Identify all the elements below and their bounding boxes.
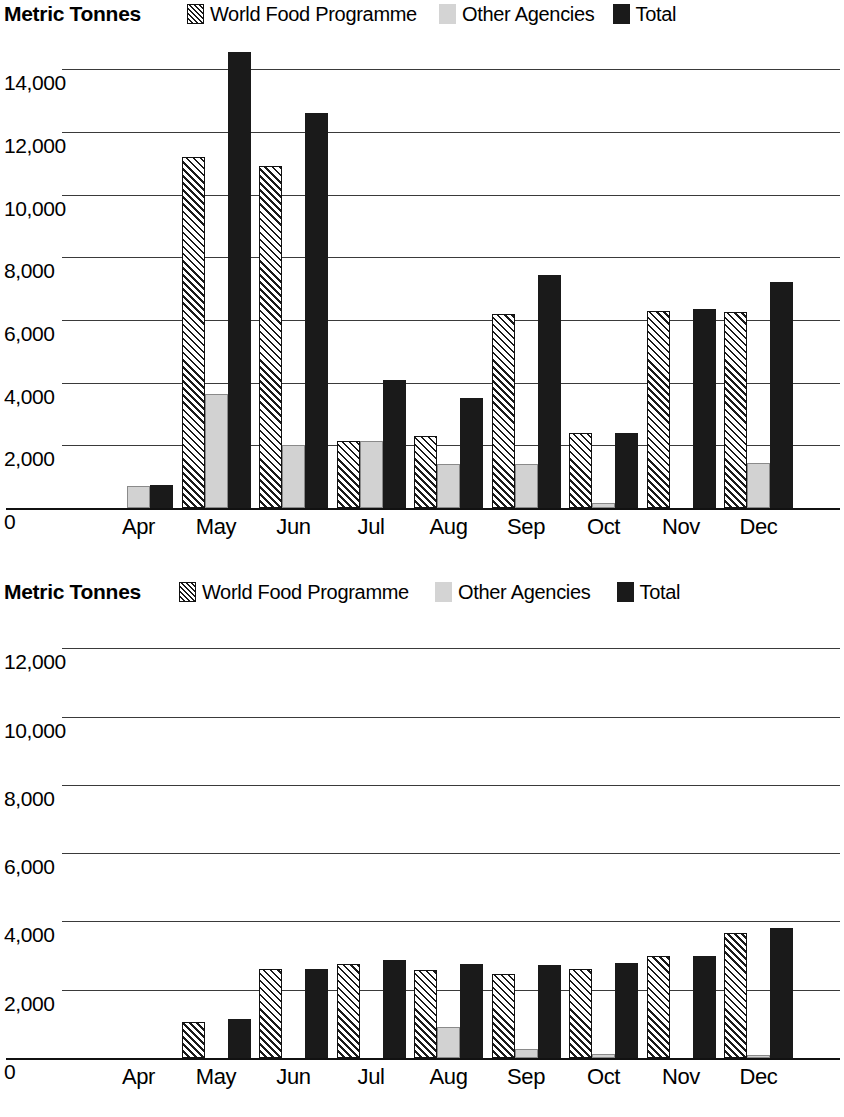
light-grey-swatch-icon xyxy=(435,582,452,602)
bar-other-apr xyxy=(127,486,150,508)
bar-other-dec xyxy=(747,463,770,508)
x-axis-tick-label: Jul xyxy=(358,514,385,540)
chart-top-plot-area: 02,0004,0006,0008,00010,00012,00014,000A… xyxy=(0,28,844,558)
x-axis-tick-label: Nov xyxy=(662,514,700,540)
bar-wfp-aug xyxy=(414,970,437,1058)
gridline xyxy=(62,69,840,70)
bar-total-oct xyxy=(615,433,638,508)
y-axis-tick-label: 10,000 xyxy=(4,198,66,219)
bar-other-sep xyxy=(515,1049,538,1058)
x-axis-tick-label: Jun xyxy=(276,1064,310,1090)
bar-other-sep xyxy=(515,464,538,508)
legend-label-wfp: World Food Programme xyxy=(202,581,409,604)
y-axis-tick-label: 12,000 xyxy=(4,135,66,156)
x-axis-tick-label: May xyxy=(196,1064,236,1090)
gridline xyxy=(62,195,840,196)
bar-total-sep xyxy=(538,965,561,1058)
y-axis-tick-label: 0 xyxy=(4,1061,15,1082)
bar-total-jul xyxy=(383,380,406,508)
chart-top-legend-row: Metric Tonnes World Food Programme Other… xyxy=(0,0,844,28)
gridline xyxy=(62,921,840,922)
light-grey-swatch-icon xyxy=(439,4,456,24)
black-swatch-icon xyxy=(617,582,634,602)
bar-wfp-oct xyxy=(569,433,592,508)
chart-bottom-axis-title: Metric Tonnes xyxy=(4,580,141,604)
bar-other-jun xyxy=(282,445,305,508)
bar-total-may xyxy=(228,52,251,508)
x-axis-tick-label: Nov xyxy=(662,1064,700,1090)
chart-top-plot: 02,0004,0006,0008,00010,00012,00014,000A… xyxy=(0,28,844,558)
gridline xyxy=(62,853,840,854)
y-axis-tick-label: 2,000 xyxy=(4,993,55,1014)
legend-label-other: Other Agencies xyxy=(462,3,595,26)
x-axis-tick-label: Oct xyxy=(587,514,620,540)
black-swatch-icon xyxy=(613,4,630,24)
gridline xyxy=(62,132,840,133)
x-axis-tick-label: Jul xyxy=(358,1064,385,1090)
legend-label-total: Total xyxy=(640,581,681,604)
legend-item-total: Total xyxy=(617,581,681,604)
legend-label-total: Total xyxy=(636,3,677,26)
x-axis-tick-label: Dec xyxy=(740,514,778,540)
bar-total-oct xyxy=(615,963,638,1058)
bar-total-aug xyxy=(460,964,483,1058)
bar-other-dec xyxy=(747,1055,770,1058)
x-axis-tick-label: Apr xyxy=(122,1064,155,1090)
chart-bottom-legend-row: Metric Tonnes World Food Programme Other… xyxy=(0,560,844,606)
y-axis-tick-label: 10,000 xyxy=(4,720,66,741)
chart-bottom-legend: World Food Programme Other Agencies Tota… xyxy=(179,581,680,604)
bar-total-may xyxy=(228,1019,251,1058)
chart-top-legend: World Food Programme Other Agencies Tota… xyxy=(187,3,676,26)
bar-wfp-oct xyxy=(569,969,592,1058)
gridline xyxy=(62,717,840,718)
bar-other-jul xyxy=(360,441,383,508)
x-axis-tick-label: Aug xyxy=(430,514,468,540)
gridline xyxy=(62,257,840,258)
chart-bottom-plot-area: 02,0004,0006,0008,00010,00012,000AprMayJ… xyxy=(0,606,844,1117)
legend-item-other: Other Agencies xyxy=(435,581,591,604)
y-axis-tick-label: 6,000 xyxy=(4,856,55,877)
bar-wfp-sep xyxy=(492,974,515,1058)
y-axis-tick-label: 0 xyxy=(4,511,15,532)
bar-total-sep xyxy=(538,275,561,508)
legend-label-wfp: World Food Programme xyxy=(210,3,417,26)
gridline xyxy=(62,785,840,786)
x-axis-line xyxy=(6,1058,840,1060)
x-axis-tick-label: Sep xyxy=(507,1064,545,1090)
chart-bottom-plot: 02,0004,0006,0008,00010,00012,000AprMayJ… xyxy=(0,606,844,1117)
x-axis-tick-label: Oct xyxy=(587,1064,620,1090)
x-axis-line xyxy=(6,508,840,510)
y-axis-tick-label: 8,000 xyxy=(4,260,55,281)
bar-total-jun xyxy=(305,969,328,1058)
y-axis-tick-label: 8,000 xyxy=(4,788,55,809)
bar-other-oct xyxy=(592,503,615,508)
hatched-swatch-icon xyxy=(187,4,204,24)
bar-wfp-jun xyxy=(259,969,282,1058)
bar-total-dec xyxy=(770,928,793,1058)
bar-wfp-dec xyxy=(724,933,747,1058)
bar-total-nov xyxy=(693,956,716,1058)
hatched-swatch-icon xyxy=(179,582,196,602)
bar-other-oct xyxy=(592,1054,615,1058)
bar-total-nov xyxy=(693,309,716,508)
x-axis-tick-label: May xyxy=(196,514,236,540)
y-axis-tick-label: 4,000 xyxy=(4,386,55,407)
chart-top-block: Metric Tonnes World Food Programme Other… xyxy=(0,0,844,560)
y-axis-tick-label: 4,000 xyxy=(4,924,55,945)
bar-total-dec xyxy=(770,282,793,508)
chart-top-axis-title: Metric Tonnes xyxy=(4,2,141,26)
bar-wfp-sep xyxy=(492,314,515,508)
legend-item-total: Total xyxy=(613,3,677,26)
bar-wfp-dec xyxy=(724,312,747,508)
x-axis-tick-label: Aug xyxy=(430,1064,468,1090)
legend-label-other: Other Agencies xyxy=(458,581,591,604)
legend-item-other: Other Agencies xyxy=(439,3,595,26)
bar-wfp-may xyxy=(182,157,205,508)
y-axis-tick-label: 6,000 xyxy=(4,323,55,344)
bar-wfp-may xyxy=(182,1022,205,1058)
y-axis-tick-label: 2,000 xyxy=(4,448,55,469)
legend-item-wfp: World Food Programme xyxy=(179,581,409,604)
y-axis-tick-label: 12,000 xyxy=(4,651,66,672)
bar-wfp-nov xyxy=(647,311,670,508)
bar-total-jun xyxy=(305,113,328,508)
